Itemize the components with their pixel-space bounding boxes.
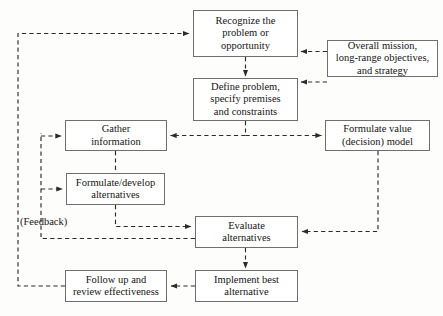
node-define-problem-label: Define problem, specify premises and con… — [208, 81, 282, 119]
edge-value-model-to-evaluate — [302, 151, 378, 232]
node-formulate-value-model-label: Formulate value (decision) model — [340, 123, 415, 148]
node-follow-up-label: Follow up and review effectiveness — [71, 274, 161, 299]
node-implement-best[interactable]: Implement best alternative — [195, 270, 298, 302]
node-recognize[interactable]: Recognize the problem or opportunity — [193, 10, 298, 57]
flowchart-diagram: Recognize the problem or opportunity Ove… — [0, 0, 443, 316]
node-gather-information-label: Gather information — [89, 123, 143, 148]
node-overall-mission[interactable]: Overall mission, long-range objectives, … — [327, 40, 438, 77]
edge-follow-up-to-recognize — [18, 34, 189, 287]
node-define-problem[interactable]: Define problem, specify premises and con… — [193, 78, 298, 121]
node-formulate-alternatives[interactable]: Formulate/develop alternatives — [66, 173, 165, 205]
node-implement-best-label: Implement best alternative — [212, 274, 281, 299]
node-recognize-label: Recognize the problem or opportunity — [214, 15, 278, 53]
feedback-caption: (Feedback) — [20, 216, 67, 228]
node-evaluate-alternatives[interactable]: Evaluate alternatives — [195, 216, 298, 248]
node-follow-up[interactable]: Follow up and review effectiveness — [65, 270, 167, 302]
edge-formulate-alternatives-to-evaluate — [116, 205, 192, 227]
node-gather-information[interactable]: Gather information — [65, 120, 167, 151]
node-formulate-value-model[interactable]: Formulate value (decision) model — [325, 120, 430, 151]
node-evaluate-alternatives-label: Evaluate alternatives — [220, 220, 272, 245]
node-formulate-alternatives-label: Formulate/develop alternatives — [74, 177, 157, 202]
node-overall-mission-label: Overall mission, long-range objectives, … — [334, 40, 431, 78]
